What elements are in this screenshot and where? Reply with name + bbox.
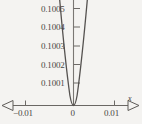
y-tick-label-1: 0.1004: [41, 22, 65, 32]
x-axis-label: x: [128, 94, 132, 103]
y-tick-label-3: 0.1002: [41, 60, 65, 70]
y-tick-label-0: 0.1005: [41, 4, 65, 14]
y-axis-ticks: [74, 9, 81, 84]
x-tick-label-neg: −0.01: [13, 108, 33, 118]
y-tick-label-4: 0.1001: [41, 78, 65, 88]
y-tick-label-2: 0.1003: [41, 41, 65, 51]
x-axis-left-arrow-icon: [2, 101, 13, 111]
parabola-figure: 0.1005 0.1004 0.1003 0.1002 0.1001 −0.01…: [0, 0, 142, 124]
x-tick-label-zero: 0: [71, 108, 75, 118]
x-tick-label-pos: 0.01: [104, 108, 119, 118]
chart-canvas: [0, 0, 142, 124]
